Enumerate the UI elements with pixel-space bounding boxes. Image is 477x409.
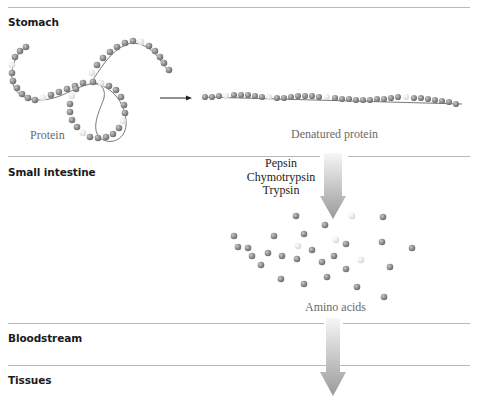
arrow-down-icon [320, 153, 346, 219]
amino-acids [231, 213, 416, 301]
arrow-down-icon [320, 318, 346, 396]
diagram-graphics [0, 0, 477, 409]
arrow-right-icon [160, 96, 192, 101]
protein-chain-backbone [12, 43, 169, 141]
denatured-protein-chain [202, 92, 462, 107]
protein-chain [9, 38, 173, 142]
